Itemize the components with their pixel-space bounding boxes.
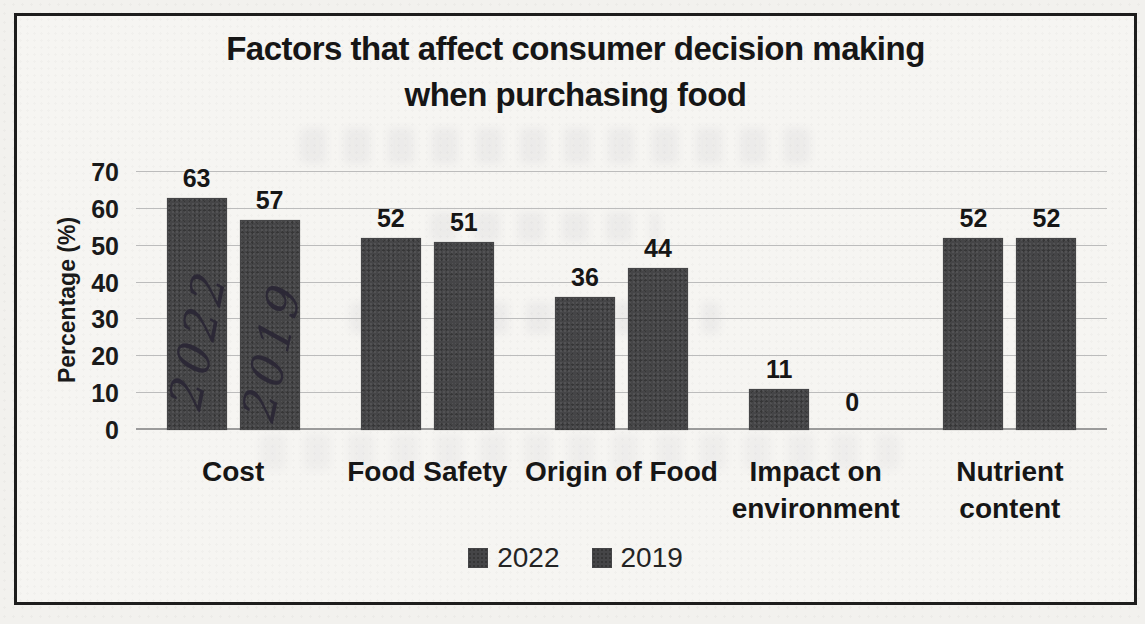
- bar-2019-food-safety: [434, 242, 494, 430]
- chart-frame: Factors that affect consumer decision ma…: [14, 13, 1137, 605]
- legend-label-2019: 2019: [621, 542, 683, 574]
- data-label-2022-cost: 63: [157, 164, 237, 192]
- bar-2022-nutrient-content: [943, 238, 1003, 430]
- data-label-2019-origin-of-food: 44: [618, 234, 698, 262]
- category-label-food-safety: Food Safety: [317, 453, 537, 490]
- y-axis-tick-labels: 706050403020100: [47, 172, 119, 430]
- data-label-2022-impact-on-environment: 11: [739, 355, 819, 383]
- chart-title: Factors that affect consumer decision ma…: [17, 26, 1134, 118]
- bleed-through-artifact: [300, 128, 810, 164]
- chart-title-line-1: Factors that affect consumer decision ma…: [17, 26, 1134, 72]
- y-tick-label-30: 30: [47, 305, 119, 333]
- data-label-2022-origin-of-food: 36: [545, 263, 625, 291]
- category-label-impact-on-environment: Impact onenvironment: [706, 453, 926, 527]
- chart-title-line-2: when purchasing food: [17, 72, 1134, 118]
- y-tick-label-50: 50: [47, 232, 119, 260]
- legend: 2022 2019: [17, 542, 1134, 574]
- legend-swatch-2019: [592, 548, 612, 568]
- y-tick-label-10: 10: [47, 379, 119, 407]
- category-label-origin-of-food: Origin of Food: [512, 453, 732, 490]
- bar-2019-nutrient-content: [1016, 238, 1076, 430]
- data-label-2022-food-safety: 52: [351, 204, 431, 232]
- data-label-2019-nutrient-content: 52: [1006, 204, 1086, 232]
- bar-2022-origin-of-food: [555, 297, 615, 430]
- category-label-cost: Cost: [123, 453, 343, 490]
- data-label-2019-impact-on-environment: 0: [812, 388, 892, 416]
- y-tick-label-0: 0: [47, 416, 119, 444]
- category-label-nutrient-content: Nutrientcontent: [900, 453, 1120, 527]
- data-label-2019-food-safety: 51: [424, 208, 504, 236]
- bar-2022-impact-on-environment: [749, 389, 809, 430]
- y-tick-label-40: 40: [47, 269, 119, 297]
- x-axis-category-labels: CostFood SafetyOrigin of FoodImpact onen…: [136, 453, 1107, 539]
- y-tick-label-20: 20: [47, 342, 119, 370]
- gridline-70: [136, 171, 1107, 172]
- y-tick-label-60: 60: [47, 195, 119, 223]
- legend-item-2022: 2022: [468, 542, 559, 574]
- data-label-2019-cost: 57: [230, 186, 310, 214]
- legend-item-2019: 2019: [592, 542, 683, 574]
- scanned-page: Factors that affect consumer decision ma…: [0, 0, 1145, 624]
- bar-2019-origin-of-food: [628, 268, 688, 430]
- bar-2022-food-safety: [361, 238, 421, 430]
- data-label-2022-nutrient-content: 52: [933, 204, 1013, 232]
- legend-swatch-2022: [468, 548, 488, 568]
- legend-label-2022: 2022: [497, 542, 559, 574]
- y-tick-label-70: 70: [47, 158, 119, 186]
